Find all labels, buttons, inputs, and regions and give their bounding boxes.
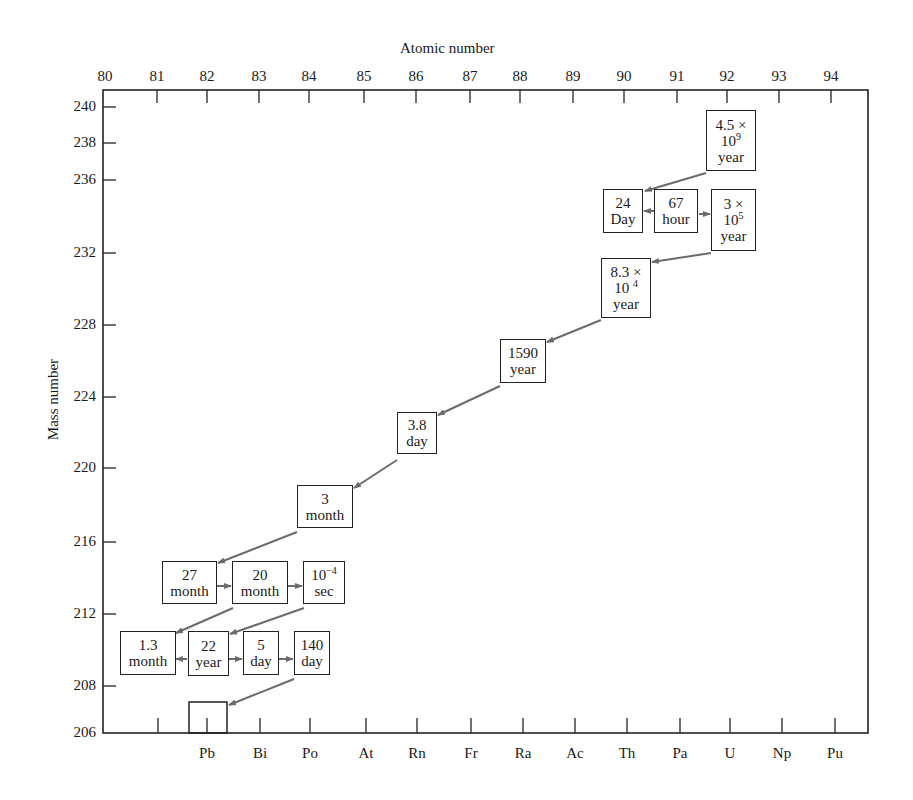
half-life-value: 67: [669, 195, 684, 211]
node-po214: 10−4 sec: [303, 561, 345, 604]
element-label-th: Th: [619, 745, 636, 762]
half-life-exponent-base: 10−4: [311, 567, 337, 583]
ytick-label: 212: [56, 605, 96, 622]
node-pa234: 67 hour: [654, 189, 698, 233]
node-u234: 3 × 105 year: [711, 189, 756, 251]
ytick-label: 240: [56, 98, 96, 115]
arrow-th230-ra226: [547, 320, 601, 342]
decay-arrows: [176, 173, 711, 705]
ytick-label: 238: [56, 134, 96, 151]
xtop-label: 87: [463, 68, 478, 85]
half-life-unit: day: [301, 653, 323, 669]
ytick-label: 208: [56, 677, 96, 694]
arrow-ra226-rn222: [438, 386, 500, 415]
half-life-value: 27: [182, 567, 197, 583]
half-life-value: 1590: [508, 345, 538, 361]
node-pb214: 27 month: [162, 561, 217, 604]
half-life-unit: year: [613, 296, 639, 312]
arrow-bi214-tl210: [176, 608, 233, 633]
ytick-label: 224: [56, 388, 96, 405]
xtop-label: 93: [772, 68, 787, 85]
node-bi214: 20 month: [232, 561, 288, 604]
node-po218: 3 month: [297, 485, 353, 528]
xtop-label: 86: [409, 68, 424, 85]
ytick-label: 236: [56, 171, 96, 188]
half-life-unit: day: [250, 653, 272, 669]
xtop-label: 89: [566, 68, 581, 85]
y-ticks: [103, 107, 116, 686]
half-life-value: 3.8: [408, 417, 427, 433]
half-life-value: 4.5 ×: [716, 117, 747, 133]
arrow-rn222-po218: [354, 460, 397, 488]
half-life-value: 24: [616, 195, 631, 211]
node-po210: 140 day: [294, 631, 330, 675]
half-life-exponent-base: 105: [724, 212, 744, 228]
element-label-np: Np: [773, 745, 791, 762]
half-life-value: 22: [201, 638, 216, 654]
element-label-at: At: [359, 745, 374, 762]
element-label-pb: Pb: [199, 745, 215, 762]
xtop-label: 88: [513, 68, 528, 85]
half-life-value: 20: [253, 567, 268, 583]
half-life-value: 140: [301, 637, 324, 653]
half-life-unit: year: [718, 149, 744, 165]
xtop-label: 85: [357, 68, 372, 85]
xtop-label: 91: [670, 68, 685, 85]
pb206-stable-box: [189, 702, 227, 733]
half-life-exponent-base: 109: [721, 133, 741, 149]
xtop-label: 80: [98, 68, 113, 85]
xtop-label: 83: [252, 68, 267, 85]
half-life-unit: month: [170, 583, 208, 599]
half-life-unit: hour: [662, 211, 690, 227]
half-life-unit: month: [129, 653, 167, 669]
arrow-po218-pb214: [218, 532, 297, 563]
half-life-unit: Day: [611, 211, 636, 227]
half-life-unit: year: [510, 361, 536, 377]
node-u238: 4.5 × 109 year: [706, 110, 756, 171]
ytick-label: 232: [56, 244, 96, 261]
xtop-label: 92: [720, 68, 735, 85]
half-life-unit: year: [196, 654, 222, 670]
decay-chain-plot: [0, 0, 913, 800]
bottom-ticks: [158, 718, 835, 733]
node-bi210: 5 day: [243, 631, 279, 675]
half-life-unit: day: [406, 433, 428, 449]
xtop-label: 84: [302, 68, 317, 85]
element-label-pu: Pu: [827, 745, 843, 762]
xtop-label: 90: [617, 68, 632, 85]
top-ticks: [157, 90, 831, 103]
element-label-u: U: [725, 745, 736, 762]
node-pb210: 22 year: [188, 631, 229, 676]
ytick-label: 206: [56, 724, 96, 741]
xtop-label: 94: [824, 68, 839, 85]
element-label-rn: Rn: [408, 745, 426, 762]
half-life-value: 5: [257, 637, 265, 653]
element-label-ac: Ac: [566, 745, 584, 762]
node-rn222: 3.8 day: [397, 412, 437, 454]
half-life-unit: month: [306, 507, 344, 523]
top-axis-title: Atomic number: [400, 40, 495, 57]
ytick-label: 216: [56, 533, 96, 550]
node-th234: 24 Day: [603, 189, 643, 233]
node-tl210: 1.3 month: [120, 631, 176, 675]
node-th230: 8.3 × 10 4 year: [601, 258, 651, 318]
xtop-label: 81: [150, 68, 165, 85]
arrow-u234-th230: [652, 253, 711, 262]
ytick-label: 220: [56, 459, 96, 476]
xtop-label: 82: [200, 68, 215, 85]
node-ra226: 1590 year: [500, 339, 546, 383]
half-life-value: 3: [321, 491, 329, 507]
element-label-bi: Bi: [253, 745, 267, 762]
element-label-po: Po: [302, 745, 318, 762]
ytick-label: 228: [56, 316, 96, 333]
half-life-value: 1.3: [139, 637, 158, 653]
element-label-pa: Pa: [673, 745, 688, 762]
half-life-unit: year: [721, 228, 747, 244]
half-life-exponent-base: 10 4: [614, 280, 638, 296]
element-label-fr: Fr: [464, 745, 477, 762]
half-life-unit: sec: [314, 583, 333, 599]
half-life-unit: month: [241, 583, 279, 599]
element-label-ra: Ra: [515, 745, 532, 762]
arrow-po210-pb206: [229, 679, 294, 705]
